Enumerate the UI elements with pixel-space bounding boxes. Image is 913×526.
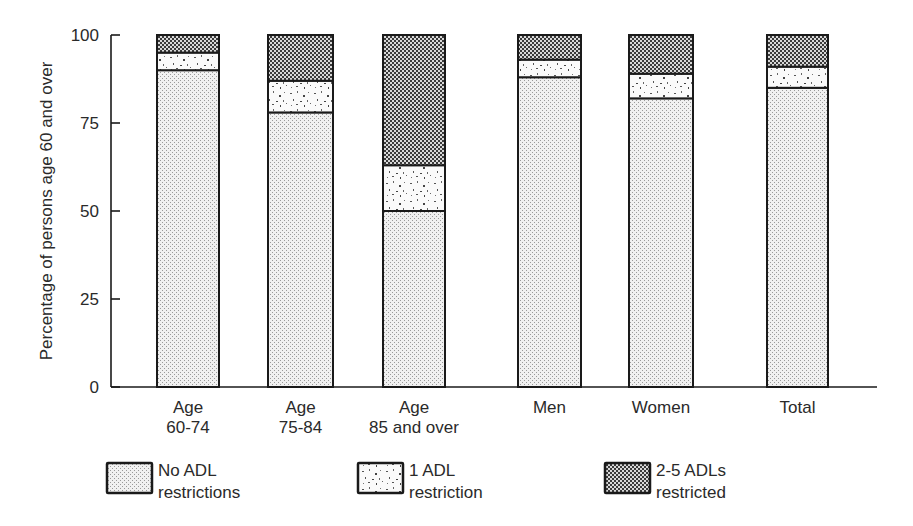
bar-total — [767, 35, 828, 387]
bar-segment — [629, 74, 693, 99]
bar-age-75-84 — [268, 35, 333, 387]
category-labels: Age60-74Age75-84Age85 and overMenWomenTo… — [166, 398, 815, 437]
bar-segment — [383, 35, 445, 165]
legend-item: 2-5 ADLsrestricted — [605, 461, 726, 502]
legend-label: restrictions — [158, 483, 240, 502]
legend-label: No ADL — [158, 461, 217, 480]
bar-segment — [383, 211, 445, 387]
legend-item: No ADLrestrictions — [107, 461, 240, 502]
bar-segment — [518, 77, 581, 387]
y-tick-label: 75 — [80, 114, 99, 133]
bar-segment — [383, 165, 445, 211]
legend-label: restricted — [656, 483, 726, 502]
bar-age-60-74 — [157, 35, 219, 387]
bar-age-85-and-over — [383, 35, 445, 387]
stacked-bar-chart: 0255075100 Age60-74Age75-84Age85 and ove… — [0, 0, 913, 526]
bar-women — [629, 35, 693, 387]
y-tick-label: 0 — [90, 378, 99, 397]
legend: No ADLrestrictions1 ADLrestriction2-5 AD… — [107, 461, 726, 502]
bar-segment — [767, 67, 828, 88]
x-category-label: Total — [780, 398, 816, 417]
legend-swatch — [107, 463, 152, 493]
bar-segment — [629, 35, 693, 74]
bar-segment — [518, 35, 581, 60]
y-tick-label: 100 — [71, 26, 99, 45]
y-axis: 0255075100 — [71, 26, 120, 397]
x-category-label: 60-74 — [166, 418, 209, 437]
x-category-label: Men — [533, 398, 566, 417]
bar-segment — [268, 112, 333, 387]
x-category-label: 85 and over — [369, 418, 459, 437]
bars — [157, 35, 828, 387]
x-category-label: Age — [285, 398, 315, 417]
x-category-label: Age — [399, 398, 429, 417]
legend-item: 1 ADLrestriction — [358, 461, 483, 502]
bar-men — [518, 35, 581, 387]
bar-segment — [268, 35, 333, 81]
legend-label: 1 ADL — [409, 461, 455, 480]
y-tick-label: 50 — [80, 202, 99, 221]
bar-segment — [767, 35, 828, 67]
legend-swatch — [605, 463, 650, 493]
bar-segment — [157, 35, 219, 53]
y-tick-label: 25 — [80, 290, 99, 309]
x-category-label: 75-84 — [279, 418, 322, 437]
legend-swatch — [358, 463, 403, 493]
legend-label: 2-5 ADLs — [656, 461, 726, 480]
bar-segment — [767, 88, 828, 387]
x-category-label: Women — [632, 398, 690, 417]
bar-segment — [157, 53, 219, 71]
bar-segment — [629, 98, 693, 387]
legend-label: restriction — [409, 483, 483, 502]
bar-segment — [518, 60, 581, 78]
y-axis-label: Percentage of persons age 60 and over — [37, 61, 56, 360]
bar-segment — [268, 81, 333, 113]
x-category-label: Age — [173, 398, 203, 417]
bar-segment — [157, 70, 219, 387]
